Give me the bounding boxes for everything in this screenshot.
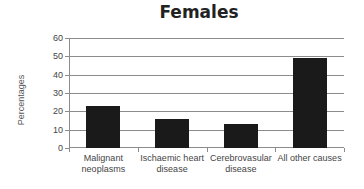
x-tick [69,148,70,152]
y-tick-label: 40 [43,70,63,80]
x-tick [275,148,276,152]
x-tick-label-line: disease [203,164,278,175]
x-tick [344,148,345,152]
x-tick-label-line: neoplasms [66,164,141,175]
y-tick-label: 60 [43,33,63,43]
y-tick-label: 10 [43,125,63,135]
x-tick [207,148,208,152]
y-tick [65,38,69,39]
y-tick [65,130,69,131]
y-tick [65,93,69,94]
x-tick-label-line [272,164,347,175]
y-tick [65,111,69,112]
bar-cerebrovasular-disease [224,124,258,148]
x-tick-label: Cerebrovasulardisease [203,153,278,175]
x-tick-label-line: All other causes [272,153,347,164]
y-tick [65,75,69,76]
y-tick-label: 30 [43,88,63,98]
y-tick [65,56,69,57]
y-tick-label: 20 [43,106,63,116]
bar-ischaemic-heart-disease [155,119,189,148]
x-tick-label: Ischaemic heartdisease [135,153,210,175]
gridline [69,56,344,57]
x-tick-label: All other causes [272,153,347,175]
x-tick-label-line: Cerebrovasular [203,153,278,164]
x-tick-label-line: Ischaemic heart [135,153,210,164]
x-tick-label: Malignantneoplasms [66,153,141,175]
chart-title: Females [0,2,364,22]
y-tick-label: 50 [43,51,63,61]
x-tick [138,148,139,152]
bar-all-other-causes [293,58,327,148]
bar-malignant-neoplasms [86,106,120,148]
x-tick-label-line: disease [135,164,210,175]
y-tick-label: 0 [43,143,63,153]
gridline [69,38,344,39]
x-tick-label-line: Malignant [66,153,141,164]
y-axis-label: Percentages [16,75,26,126]
plot-area [69,38,344,148]
